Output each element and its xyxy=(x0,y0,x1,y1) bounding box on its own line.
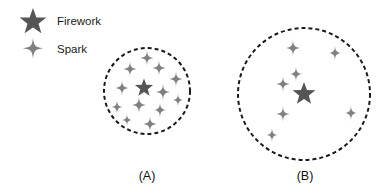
spark-marker xyxy=(274,75,292,93)
legend-label-firework: Firework xyxy=(57,15,101,27)
spark-marker xyxy=(274,105,292,123)
panel-caption-b: (B) xyxy=(297,169,314,183)
spark-marker xyxy=(154,83,173,102)
spark-marker xyxy=(152,102,169,119)
spark-marker xyxy=(113,79,131,97)
star-icon xyxy=(20,8,47,33)
panel-a: (A) xyxy=(104,48,190,183)
spark-marker xyxy=(288,66,305,83)
spark-marker xyxy=(130,96,149,115)
firework-group-b xyxy=(293,82,316,104)
panel-caption-a: (A) xyxy=(139,169,156,183)
sparkle-icon xyxy=(23,38,43,58)
spark-marker xyxy=(264,127,280,143)
legend-item-firework: Firework xyxy=(20,8,102,33)
spark-marker xyxy=(171,93,186,108)
figure-canvas: Firework Spark (A) (B) xyxy=(0,0,390,196)
firework-marker xyxy=(135,79,153,96)
spark-marker xyxy=(284,39,303,58)
spark-marker xyxy=(138,49,156,67)
spark-marker xyxy=(343,105,360,122)
firework-marker xyxy=(293,82,316,104)
spark-marker xyxy=(167,70,185,88)
firework-group-a xyxy=(135,79,153,96)
spark-marker xyxy=(327,45,344,62)
legend-label-spark: Spark xyxy=(57,43,87,55)
spark-marker xyxy=(121,60,139,78)
panel-b: (B) xyxy=(238,28,370,183)
spark-marker xyxy=(141,115,159,133)
spark-marker xyxy=(150,59,168,77)
spark-marker xyxy=(109,99,125,115)
legend: Firework Spark xyxy=(20,8,102,58)
legend-item-spark: Spark xyxy=(23,38,87,58)
diagram-svg: Firework Spark (A) (B) xyxy=(0,0,390,196)
